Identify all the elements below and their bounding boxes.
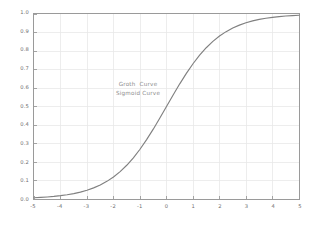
x-tick-label: 0 [165,204,169,209]
y-tick-label: 0.4 [4,123,29,128]
x-tick-label: -1 [137,204,143,209]
annotation-line: Sigmoid Curve [116,89,160,98]
figure-canvas: 0.00.10.20.30.40.50.60.70.80.91.0 -5-4-3… [0,0,311,227]
plot-axes-frame [33,13,300,200]
y-tick-label: 0.1 [4,179,29,184]
y-tick-label: 0.3 [4,141,29,146]
y-tick-label: 0.9 [4,29,29,34]
x-tick-label: 4 [272,204,276,209]
x-tick-label: 5 [298,204,302,209]
y-tick-label: 1.0 [4,10,29,15]
x-tick-label: 1 [191,204,195,209]
y-tick-label: 0.0 [4,197,29,202]
y-tick-label: 0.5 [4,104,29,109]
tick-mark-layer [34,14,299,199]
y-tick-label: 0.7 [4,66,29,71]
y-tick-label: 0.6 [4,85,29,90]
annotation-line: Groth Curve [116,80,160,89]
x-tick-label: -2 [110,204,116,209]
x-tick-label: 3 [245,204,249,209]
x-tick-label: -3 [84,204,90,209]
x-tick-label: -4 [57,204,63,209]
y-tick-label: 0.8 [4,48,29,53]
y-tick-label: 0.2 [4,160,29,165]
x-tick-label: -5 [30,204,36,209]
chart-annotation-text: Groth CurveSigmoid Curve [116,80,160,97]
x-tick-label: 2 [218,204,222,209]
